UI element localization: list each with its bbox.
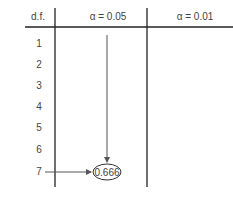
row-label: 1 <box>34 38 44 50</box>
row-label: 4 <box>34 101 44 113</box>
header-alpha-001: α = 0.01 <box>177 11 214 23</box>
row-label: 3 <box>34 80 44 92</box>
header-alpha-005: α = 0.05 <box>90 11 127 23</box>
row-label: 7 <box>34 166 44 178</box>
row-label: 5 <box>34 122 44 134</box>
row-label: 2 <box>34 59 44 71</box>
highlighted-value: 0.666 <box>92 165 122 180</box>
row-label: 6 <box>34 144 44 156</box>
header-df: d.f. <box>31 11 45 23</box>
